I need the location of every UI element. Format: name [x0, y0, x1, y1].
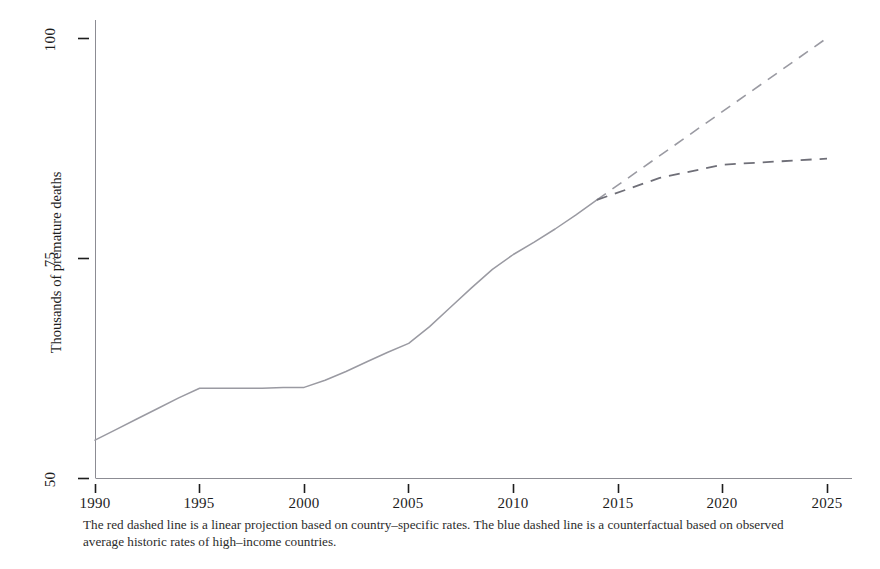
x-tick-label-2015: 2015 [588, 495, 648, 512]
y-tick-marks [78, 39, 89, 479]
x-tick-label-2000: 2000 [274, 495, 334, 512]
series-counterfactual-dashed [597, 159, 827, 200]
y-tick-label-50: 50 [42, 466, 59, 494]
x-tick-label-2010: 2010 [483, 495, 543, 512]
series-linear-projection-dashed [597, 38, 827, 200]
y-tick-label-75: 75 [42, 246, 59, 274]
x-tick-label-2005: 2005 [378, 495, 438, 512]
x-tick-marks [96, 484, 828, 493]
x-tick-label-2020: 2020 [692, 495, 752, 512]
chart-figure: Thousands of premature deaths 100 75 50 … [0, 0, 880, 569]
figure-caption: The red dashed line is a linear projecti… [83, 517, 825, 551]
series-observed-line [95, 200, 597, 440]
line-chart-plot [0, 0, 880, 569]
x-tick-label-1995: 1995 [169, 495, 229, 512]
x-tick-label-1990: 1990 [65, 495, 125, 512]
y-tick-label-100: 100 [42, 20, 59, 60]
x-tick-label-2025: 2025 [797, 495, 857, 512]
